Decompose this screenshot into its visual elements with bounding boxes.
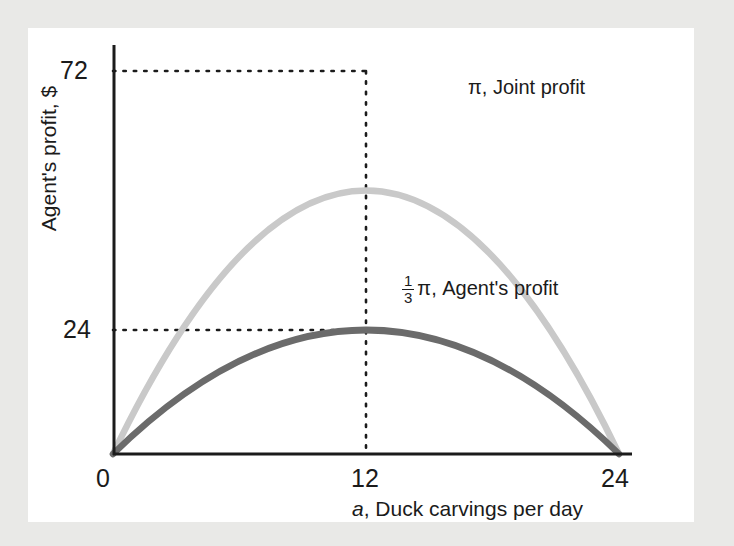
x-axis-label: a, Duck carvings per day	[352, 498, 583, 519]
x-axis-label-variable: a	[352, 497, 364, 520]
one-third-fraction: 1 3	[402, 273, 414, 306]
guide-lines	[113, 71, 367, 454]
x-tick-label-12: 12	[351, 466, 379, 491]
y-tick-label-72: 72	[60, 58, 88, 83]
y-axis-label: Agent's profit, $	[38, 69, 59, 249]
y-tick-label-24: 24	[63, 317, 91, 342]
annotation-agent-profit-text: π, Agent's profit	[417, 278, 558, 298]
fraction-denominator: 3	[402, 289, 414, 306]
x-tick-label-0: 0	[96, 466, 110, 491]
fraction-numerator: 1	[402, 273, 414, 289]
x-tick-label-24: 24	[601, 466, 629, 491]
x-axis-label-text: , Duck carvings per day	[364, 497, 583, 520]
annotation-agent-profit: 1 3 π, Agent's profit	[402, 272, 558, 305]
annotation-joint-profit: π, Joint profit	[468, 77, 585, 97]
